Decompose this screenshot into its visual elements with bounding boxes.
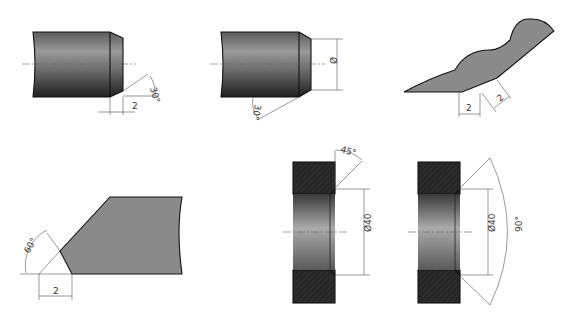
- diameter-label: Ø40: [363, 213, 373, 232]
- figure-bevel-edge: 60° 2: [20, 197, 182, 300]
- figure-bore-chamfer-45: 45° Ø40: [283, 144, 373, 303]
- angle-label: 90°: [514, 216, 524, 232]
- leg2-label: 2: [495, 92, 506, 103]
- chamfer-drawings: 30° 2 Ø 30° 2 2 60°: [0, 0, 572, 328]
- figure-bore-chamfer-90: 90° Ø40: [408, 158, 524, 305]
- angle-label: 60°: [22, 236, 39, 255]
- length-label: 2: [132, 101, 138, 111]
- angle-label: 45°: [339, 144, 357, 158]
- angle-label: 30°: [148, 86, 162, 104]
- figure-shaft-chamfer: 30° 2: [22, 32, 162, 115]
- angle-label: 30°: [250, 104, 263, 121]
- length-label: 2: [53, 286, 59, 296]
- diameter-label: Ø40: [487, 213, 497, 232]
- figure-sheet-edge-chamfer: 2 2: [404, 19, 554, 117]
- leg1-label: 2: [466, 103, 472, 113]
- diameter-label: Ø: [329, 57, 339, 64]
- figure-shaft-chamfer-diameter: Ø 30°: [210, 32, 343, 121]
